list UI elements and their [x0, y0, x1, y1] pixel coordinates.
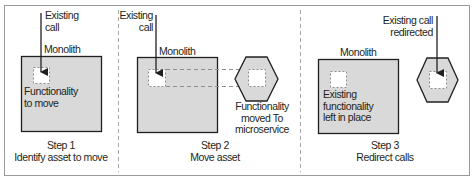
step2-monolith: [138, 58, 218, 133]
step2-call-label-line1: Existing: [110, 10, 153, 22]
step2-title: Step 2: [160, 140, 270, 152]
step3-functionality-line1: Existing: [323, 89, 373, 101]
step1-functionality-line1: Functionality: [24, 86, 78, 98]
step2-microservice-hexagon: [235, 57, 278, 101]
step3-description: Redirect calls: [330, 152, 440, 164]
step2-functionality-box: [149, 70, 166, 87]
step2-functionality-line1: Functionality: [214, 101, 310, 113]
step2-call-label: Existing call: [110, 10, 153, 33]
step3-functionality-label: Existing functionality left in place: [323, 89, 373, 124]
step3-title: Step 3: [330, 140, 440, 152]
step3-caption: Step 3 Redirect calls: [330, 140, 440, 163]
step3-call-label: Existing call redirected: [360, 15, 433, 38]
step1-call-label: Existing call: [45, 10, 79, 33]
step2-functionality-line3: microservice: [214, 124, 310, 136]
step1-monolith-label: Monolith: [44, 44, 81, 56]
step3-functionality-line3: left in place: [323, 112, 373, 124]
step1-title: Step 1: [8, 140, 114, 152]
step3-call-label-line2: redirected: [360, 27, 433, 39]
step2-functionality-label: Functionality moved To microservice: [214, 101, 310, 136]
step1-functionality-label: Functionality to move: [24, 86, 78, 109]
step2-monolith-label: Monolith: [159, 46, 196, 58]
step3-microservice-functionality-box: [430, 72, 447, 89]
step1-caption: Step 1 Identify asset to move: [8, 140, 114, 163]
step3-functionality-box: [331, 72, 347, 88]
step1-description: Identify asset to move: [8, 152, 114, 164]
step2-call-label-line2: call: [110, 22, 153, 34]
step1-call-label-line1: Existing: [45, 10, 79, 22]
step2-description: Move asset: [160, 152, 270, 164]
step2-moved-functionality-box: [249, 70, 266, 87]
step1-call-label-line2: call: [45, 22, 79, 34]
step2-caption: Step 2 Move asset: [160, 140, 270, 163]
step3-call-label-line1: Existing call: [360, 15, 433, 27]
step3-monolith-label: Monolith: [340, 47, 377, 59]
step1-functionality-line2: to move: [24, 98, 78, 110]
